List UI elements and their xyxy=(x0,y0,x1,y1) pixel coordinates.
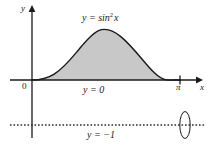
curve-equation-variable: x xyxy=(114,12,118,23)
shaded-region-under-curve xyxy=(32,29,180,80)
x-axis-label: x xyxy=(200,83,204,92)
axis-line-label: y = 0 xyxy=(83,85,104,95)
rotation-line-label: y = −1 xyxy=(87,130,115,140)
curve-equation-label: y = sin2 x xyxy=(82,13,118,23)
x-tick-label-pi: π xyxy=(176,83,181,92)
curve-equation-exponent: 2 xyxy=(110,11,113,18)
origin-label: 0 xyxy=(22,82,27,91)
curve-equation-base: y = sin xyxy=(82,12,110,23)
y-axis-arrowhead xyxy=(29,5,36,12)
figure-container: y x 0 π y = sin2 x y = 0 y = −1 xyxy=(0,0,212,151)
y-axis-label: y xyxy=(21,4,25,13)
